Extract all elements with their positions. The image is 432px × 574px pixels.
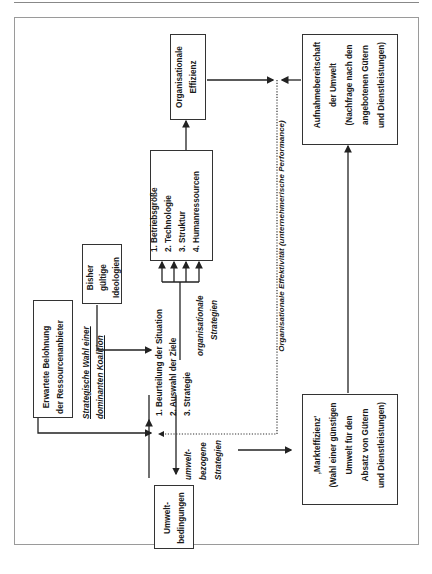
factor-item: 3. Struktur [176, 152, 190, 252]
box-text-line: Erwartete Belohnung [40, 308, 54, 426]
label-strategische-wahl: Strategische Wahl einer dominanten Koali… [80, 309, 108, 419]
factor-item: 2. Technologie [162, 152, 176, 252]
box-text-line: Aufnahmebereitschaft [310, 30, 326, 141]
box-text-line: Organisationale [173, 34, 187, 120]
box-text-line: und Dienstleistungen) [374, 30, 390, 141]
box-text-line: Umwelt für den [342, 390, 358, 501]
label-line: Organisationale Effektivität (unternehme… [277, 120, 286, 351]
box-text-line: Ideologien [110, 248, 123, 308]
label-line: Strategien [208, 284, 222, 356]
box-text-line: (Wahl einer günstigen [326, 390, 342, 501]
label-line: organisationale [194, 284, 208, 356]
factor-item: 1. Betriebsgröße [148, 152, 162, 252]
box-text-line: ‚Markteffizienz' [310, 390, 326, 501]
strategy-steps: 1. Beurteilung der Situation 2. Auswahl … [153, 292, 195, 416]
strategy-step: 3. Strategie [181, 292, 195, 416]
label-org-effektivitaet: Organisationale Effektivität (unternehme… [275, 111, 289, 361]
box-text-line: Umwelt- [161, 486, 175, 550]
box-text-line: angebotenen Gütern [358, 30, 374, 141]
label-organisationale-strategien: organisationale Strategien [194, 284, 222, 356]
label-line: Strategische Wahl einer [80, 309, 94, 419]
box-aufnahmebereitschaft: Aufnahmebereitschaft der Umwelt (Nachfra… [302, 34, 398, 145]
box-erwartete-belohnung: Erwartete Belohnung der Ressourcenanbiet… [33, 300, 73, 418]
label-line: Strategien [211, 422, 226, 480]
box-umweltbedingungen: Umwelt- bedingungen [154, 485, 194, 549]
box-text-line: gültige [97, 248, 110, 308]
box-text-line: (Nachfrage nach den [342, 30, 358, 141]
box-org-effizienz: Organisationale Effizienz [170, 34, 206, 120]
label-umweltbezogene-strategien: umwelt- bezogene Strategien [181, 422, 225, 480]
box-text-line: der Umwelt [326, 30, 342, 141]
box-org-factors: 1. Betriebsgröße 2. Technologie 3. Struk… [150, 150, 213, 261]
box-text-line: der Ressourcenanbieter [54, 308, 68, 426]
box-text-line: Bisher [84, 248, 97, 308]
strategy-step: 2. Auswahl der Ziele [167, 292, 181, 416]
label-line: bezogene [196, 422, 211, 480]
label-line: dominanten Koalition [94, 309, 108, 419]
box-text-line: Absatz von Gütern [358, 390, 374, 501]
factor-item: 4. Humanressourcen [190, 152, 204, 252]
box-text-line: bedingungen [175, 486, 189, 550]
box-bisher-gueltige-ideologien: Bisher gültige Ideologien [82, 244, 122, 304]
box-text-line: Effizienz [187, 34, 201, 120]
box-markteffizienz: ‚Markteffizienz' (Wahl einer günstigen U… [302, 394, 398, 505]
label-line: umwelt- [181, 422, 196, 480]
box-text-line: und Dienstleistungen) [374, 390, 390, 501]
strategy-step: 1. Beurteilung der Situation [153, 292, 167, 416]
